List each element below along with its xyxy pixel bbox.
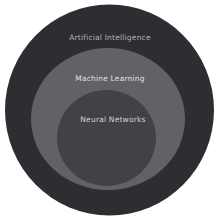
neural-networks-circle	[57, 90, 156, 186]
artificial-intelligence-label: Artificial Intelligence	[69, 33, 151, 42]
diagram-canvas: Artificial Intelligence Machine Learning…	[0, 0, 219, 221]
nested-circles-diagram: Artificial Intelligence Machine Learning…	[0, 0, 219, 221]
machine-learning-label: Machine Learning	[75, 74, 145, 83]
neural-networks-label: Neural Networks	[80, 115, 145, 124]
